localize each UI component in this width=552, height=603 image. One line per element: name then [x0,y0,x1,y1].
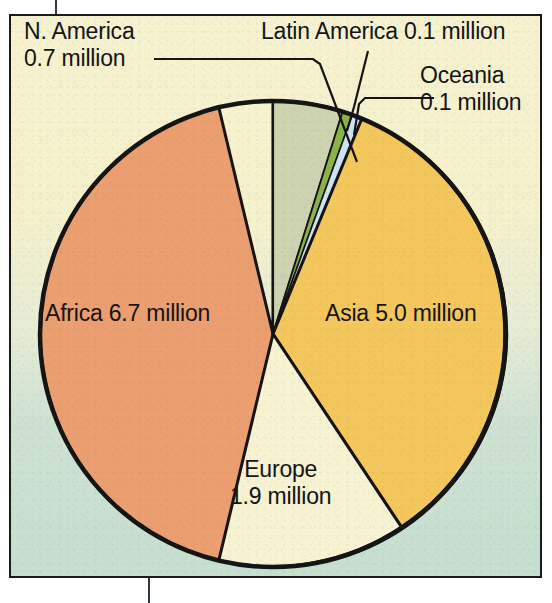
slice-label-n-america-line1: N. America [24,18,134,45]
slice-label-asia: Asia 5.0 million [325,300,476,327]
slice-label-n-america-line2: 0.7 million [24,45,134,72]
slice-label-n-america: N. America 0.7 million [24,18,134,72]
connector-line-bottom [148,578,150,603]
slice-label-oceania-line1: Oceania [420,62,521,89]
slice-label-asia-line1: Asia 5.0 million [325,300,476,327]
slice-label-latin-america-line1: Latin America 0.1 million [261,18,505,45]
connector-line-top [55,0,57,15]
slice-label-latin-america: Latin America 0.1 million [261,18,505,45]
slice-label-europe: Europe 1.9 million [230,456,331,510]
slice-label-europe-line2: 1.9 million [230,483,331,510]
slice-label-europe-line1: Europe [230,456,331,483]
slice-label-africa-line1: Africa 6.7 million [45,300,210,327]
slice-label-oceania-line2: 0.1 million [420,89,521,116]
pie-chart-figure: N. America 0.7 million Latin America 0.1… [0,0,552,603]
slice-label-oceania: Oceania 0.1 million [420,62,521,116]
slice-label-africa: Africa 6.7 million [45,300,210,327]
